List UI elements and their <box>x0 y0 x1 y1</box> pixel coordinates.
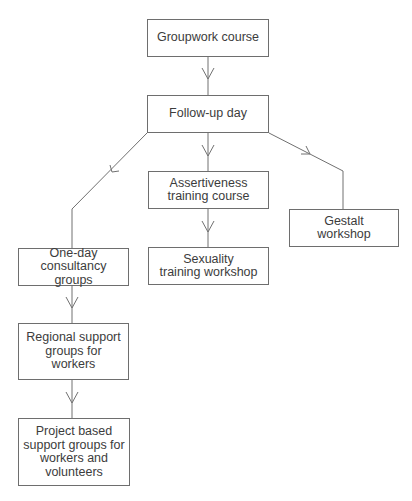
node-label: Regional support groups for workers <box>26 331 121 372</box>
edge-regional-project <box>66 380 78 418</box>
node-one-day-consultancy-groups: One-day consultancy groups <box>18 248 129 286</box>
node-label: Project based support groups for workers… <box>23 425 124 479</box>
node-sexuality-training-workshop: Sexuality training workshop <box>148 247 269 285</box>
node-label: Follow-up day <box>169 107 247 121</box>
node-follow-up-day: Follow-up day <box>147 95 269 133</box>
edge-followup-gestalt <box>269 133 343 209</box>
flowchart: Groupwork course Follow-up day Assertive… <box>0 0 412 501</box>
node-groupwork-course: Groupwork course <box>147 19 269 57</box>
node-label: Groupwork course <box>157 31 259 45</box>
edge-followup-oneday <box>72 133 147 248</box>
edge-followup-assertiveness <box>202 133 214 171</box>
node-project-based-support-groups: Project based support groups for workers… <box>18 418 130 486</box>
edge-groupwork-followup <box>202 57 214 95</box>
edge-oneday-regional <box>66 285 78 323</box>
node-label: Gestalt workshop <box>317 215 371 242</box>
node-regional-support-groups: Regional support groups for workers <box>18 323 129 380</box>
node-assertiveness-training-course: Assertiveness training course <box>148 171 269 209</box>
node-label: Assertiveness training course <box>168 177 250 204</box>
edge-assertiveness-sexuality <box>202 209 214 247</box>
node-label: Sexuality training workshop <box>160 253 258 280</box>
node-gestalt-workshop: Gestalt workshop <box>289 209 399 247</box>
node-label: One-day consultancy groups <box>21 247 126 288</box>
